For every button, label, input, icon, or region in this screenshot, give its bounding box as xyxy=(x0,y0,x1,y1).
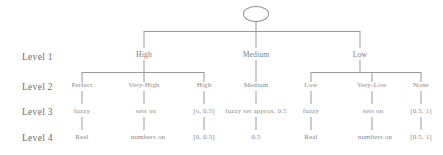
node-level4-value-half: 0.5 xyxy=(251,133,260,141)
connector-very-high-to-sets-on xyxy=(144,91,145,104)
node-level2-perfect: Perfect xyxy=(72,81,93,89)
connector-fuzzy-to-real-left xyxy=(82,117,83,130)
root-node-ellipse xyxy=(243,6,269,22)
connector-medium2-to-approx xyxy=(256,91,257,104)
node-level3-sets-on-left: sets on xyxy=(136,107,156,115)
node-level2-very-high: Very-High xyxy=(129,81,160,89)
connector-sets-to-numbers-left xyxy=(144,117,145,130)
connector-to-high xyxy=(144,31,145,48)
node-level3-fuzzy-right: fuzzy xyxy=(303,107,319,115)
node-level4-interval-high: [0.5, 1] xyxy=(410,133,432,141)
node-level4-interval-low: [0, 0.5] xyxy=(193,133,215,141)
node-level2-medium: Medium xyxy=(244,81,269,89)
node-level1-high: High xyxy=(136,50,152,59)
node-level4-numbers-on-right: numbers on xyxy=(358,133,392,141)
connector-fuzzy-to-real-right xyxy=(311,117,312,130)
connector-level1-bus xyxy=(144,31,360,32)
node-level2-none: None xyxy=(413,81,429,89)
node-level3-fuzzy-left: fuzzy xyxy=(74,107,90,115)
connector-low-bus xyxy=(311,72,421,73)
connector-high2-to-interval xyxy=(204,91,205,104)
connector-low-stem xyxy=(360,60,361,72)
connector-to-medium xyxy=(256,31,257,48)
node-level2-low: Low xyxy=(304,81,317,89)
node-level4-real-left: Real xyxy=(75,133,88,141)
node-level4-numbers-on-left: numbers on xyxy=(131,133,165,141)
connector-interval-low-link xyxy=(204,117,205,130)
connector-medium-stem xyxy=(256,60,257,82)
row-label-level-1: Level 1 xyxy=(22,52,53,62)
connector-very-low-to-sets-on xyxy=(372,91,373,104)
row-label-level-3: Level 3 xyxy=(22,107,53,117)
connector-root-stem xyxy=(256,22,257,31)
connector-none-to-interval xyxy=(421,91,422,104)
connector-interval-high-link xyxy=(421,117,422,130)
connector-high-stem xyxy=(144,60,145,72)
node-level3-interval-high: [0.5, 1] xyxy=(410,107,432,115)
connector-low2-to-fuzzy xyxy=(311,91,312,104)
node-level3-fuzzy-set-approx: fuzzy set approx. 0.5 xyxy=(225,107,287,115)
connector-approx-to-value xyxy=(256,117,257,130)
node-level3-sets-on-right: sets on xyxy=(363,107,383,115)
row-label-level-2: Level 2 xyxy=(22,82,53,92)
connector-to-low xyxy=(360,31,361,48)
node-level2-high: High xyxy=(197,81,212,89)
diagram-canvas: Level 1 Level 2 Level 3 Level 4 High Med… xyxy=(0,0,443,155)
node-level4-real-right: Real xyxy=(304,133,317,141)
node-level2-very-low: Very-Low xyxy=(357,81,387,89)
node-level1-low: Low xyxy=(353,50,367,59)
node-level1-medium: Medium xyxy=(243,50,270,59)
row-label-level-4: Level 4 xyxy=(22,133,53,143)
node-level3-interval-low: [o, 0.5] xyxy=(193,107,215,115)
connector-sets-to-numbers-right xyxy=(372,117,373,130)
connector-perfect-to-fuzzy xyxy=(82,91,83,104)
